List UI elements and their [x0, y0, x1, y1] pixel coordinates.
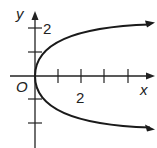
x-tick-label-2: 2: [76, 89, 84, 106]
y-tick-label-2: 2: [43, 20, 51, 37]
lower-branch-arrow-icon: [145, 125, 155, 132]
parabola-graph: y x O 2 2: [0, 0, 157, 148]
upper-branch-curve: [35, 25, 150, 77]
y-axis-arrow-icon: [32, 11, 39, 20]
upper-branch-arrow-icon: [145, 21, 155, 28]
lower-branch-curve: [35, 76, 150, 128]
x-axis-arrow-icon: [146, 73, 155, 80]
x-axis-label: x: [139, 81, 148, 98]
origin-label: O: [16, 78, 28, 95]
y-axis-label: y: [15, 5, 25, 22]
